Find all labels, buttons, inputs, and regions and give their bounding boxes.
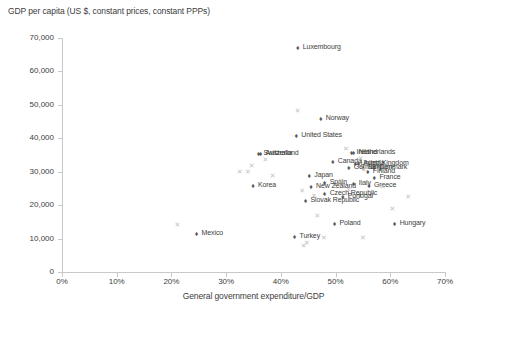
y-tick-label: 10,000 — [2, 234, 54, 243]
diamond-marker-icon: ♦ — [351, 150, 357, 156]
data-point-label: Luxembourg — [303, 43, 341, 50]
diamond-marker-icon: ♦ — [250, 183, 256, 189]
diamond-marker-icon: ♦ — [330, 159, 336, 165]
diamond-marker-icon: ♦ — [331, 221, 337, 227]
x-tick-label: 40% — [261, 277, 301, 286]
data-point-label: Turkey — [300, 232, 321, 239]
x-marker-icon: ✕ — [301, 242, 307, 250]
x-marker-icon: ✕ — [405, 193, 411, 201]
x-marker-icon: ✕ — [375, 166, 381, 174]
y-tick-label: 60,000 — [2, 66, 54, 75]
x-marker-icon: ✕ — [295, 107, 301, 115]
x-marker-icon: ✕ — [299, 187, 305, 195]
x-tick-label: 20% — [151, 277, 191, 286]
data-point-label: Poland — [339, 219, 360, 226]
x-marker-icon: ✕ — [380, 183, 386, 191]
x-marker-icon: ✕ — [389, 205, 395, 213]
x-marker-icon: ✕ — [361, 166, 367, 174]
data-point-label: Korea — [258, 181, 276, 188]
data-point-label: France — [379, 173, 400, 180]
x-tick-mark — [336, 273, 337, 277]
y-tick-label: 20,000 — [2, 200, 54, 209]
x-marker-icon: ✕ — [315, 212, 321, 220]
y-tick-label: 30,000 — [2, 167, 54, 176]
y-tick-label: 70,000 — [2, 33, 54, 42]
x-tick-mark — [171, 273, 172, 277]
x-tick-label: 0% — [42, 277, 82, 286]
x-tick-mark — [117, 273, 118, 277]
x-marker-icon: ✕ — [343, 145, 349, 153]
x-marker-icon: ✕ — [263, 156, 269, 164]
data-point-label: Norway — [326, 114, 349, 121]
x-marker-icon: ✕ — [321, 234, 327, 242]
x-tick-label: 30% — [206, 277, 246, 286]
diamond-marker-icon: ♦ — [392, 221, 398, 227]
plot-area — [62, 38, 445, 272]
x-marker-icon: ✕ — [270, 172, 276, 180]
x-marker-icon: ✕ — [359, 179, 365, 187]
x-tick-mark — [390, 273, 391, 277]
x-marker-icon: ✕ — [311, 192, 317, 200]
x-marker-icon: ✕ — [174, 221, 180, 229]
x-marker-icon: ✕ — [346, 186, 352, 194]
diamond-marker-icon: ♦ — [292, 234, 298, 240]
x-tick-label: 50% — [316, 277, 356, 286]
x-marker-icon: ✕ — [358, 155, 364, 163]
data-point-label: Hungary — [400, 219, 426, 226]
diamond-marker-icon: ♦ — [308, 184, 314, 190]
diamond-marker-icon: ♦ — [318, 116, 324, 122]
data-point-label: United States — [301, 131, 342, 138]
diamond-marker-icon: ♦ — [194, 231, 200, 237]
data-point-label: Japan — [314, 171, 333, 178]
x-tick-mark — [281, 273, 282, 277]
data-point-label: Netherlands — [359, 148, 396, 155]
data-point-label: Slovak Republic — [310, 196, 359, 203]
x-tick-mark — [226, 273, 227, 277]
chart-title: GDP per capita (US $, constant prices, c… — [8, 6, 210, 16]
diamond-marker-icon: ♦ — [295, 45, 301, 51]
x-marker-icon: ✕ — [338, 177, 344, 185]
diamond-marker-icon: ♦ — [306, 173, 312, 179]
x-marker-icon: ✕ — [237, 168, 243, 176]
y-tick-label: 50,000 — [2, 100, 54, 109]
x-tick-label: 70% — [425, 277, 465, 286]
y-tick-label: 40,000 — [2, 133, 54, 142]
figure-caption — [0, 322, 507, 337]
data-point-label: Australia — [266, 149, 292, 156]
x-tick-label: 10% — [97, 277, 137, 286]
x-marker-icon: ✕ — [245, 168, 251, 176]
scatter-chart: GDP per capita (US $, constant prices, c… — [0, 0, 507, 337]
diamond-marker-icon: ♦ — [346, 165, 352, 171]
data-point-label: Mexico — [202, 229, 224, 236]
x-axis-title: General government expenditure/GDP — [0, 291, 507, 301]
x-tick-mark — [445, 273, 446, 277]
diamond-marker-icon: ♦ — [302, 198, 308, 204]
y-tick-label: 0 — [2, 267, 54, 276]
x-tick-mark — [62, 273, 63, 277]
diamond-marker-icon: ♦ — [293, 133, 299, 139]
x-marker-icon: ✕ — [360, 234, 366, 242]
x-axis-line — [62, 272, 446, 273]
x-tick-label: 60% — [370, 277, 410, 286]
